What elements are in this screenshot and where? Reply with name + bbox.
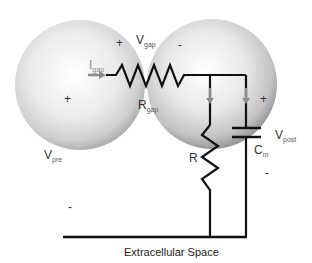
presynaptic-cell (15, 20, 145, 150)
post-minus-sign: - (265, 167, 269, 179)
outside-minus-sign: - (68, 201, 72, 213)
circuit-diagram (0, 0, 312, 263)
i-gap-label: Igap (89, 59, 104, 73)
r-gap-label: Rgap (138, 99, 158, 113)
v-gap-plus-sign: + (116, 37, 123, 49)
postsynaptic-cell (147, 19, 277, 149)
v-gap-label: Vgap (136, 34, 156, 48)
v-post-label: Vpost (275, 129, 296, 143)
cm-label: Cm (254, 144, 269, 158)
extracellular-space-caption: Extracellular Space (124, 246, 219, 258)
v-gap-minus-sign: - (178, 39, 182, 51)
r-label: R (189, 152, 198, 164)
pre-plus-sign: + (64, 93, 71, 105)
v-pre-label: Vpre (44, 149, 62, 163)
post-plus-sign: + (260, 93, 267, 105)
